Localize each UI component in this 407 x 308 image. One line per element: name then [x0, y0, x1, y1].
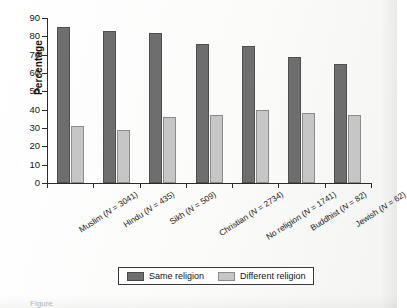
- x-axis-tick: [278, 183, 279, 188]
- x-axis-category-label: Muslim (N = 3041): [77, 189, 140, 234]
- bar-same-religion: [288, 57, 301, 184]
- legend-swatch-diff: [218, 272, 235, 281]
- y-axis-tick-label: 80: [12, 31, 40, 40]
- figure-caption: Figure: [30, 299, 53, 308]
- bar-different-religion: [348, 115, 361, 183]
- bar-same-religion: [334, 64, 347, 183]
- y-axis-tick-label: 70: [12, 50, 40, 59]
- x-axis-tick: [47, 183, 48, 188]
- bar-same-religion: [57, 27, 70, 183]
- chart-legend: Same religionDifferent religion: [118, 267, 314, 285]
- bar-same-religion: [103, 31, 116, 183]
- x-axis-tick: [325, 183, 326, 188]
- bars-plot-area: [47, 18, 371, 183]
- y-axis-tick-label: 0: [12, 178, 40, 187]
- y-axis-tick-label: 20: [12, 141, 40, 150]
- x-axis-tick: [232, 183, 233, 188]
- legend-label: Same religion: [149, 271, 204, 281]
- x-axis-line: [47, 183, 371, 184]
- y-axis-tick-label: 60: [12, 68, 40, 77]
- legend-swatch-same: [127, 272, 144, 281]
- y-axis-tick-label: 30: [12, 123, 40, 132]
- legend-label: Different religion: [240, 271, 305, 281]
- legend-item: Different religion: [218, 271, 305, 281]
- bar-different-religion: [210, 115, 223, 183]
- bar-different-religion: [302, 113, 315, 183]
- x-axis-tick: [186, 183, 187, 188]
- y-axis-tick-label: 90: [12, 13, 40, 22]
- x-axis-tick: [371, 183, 372, 188]
- bar-different-religion: [117, 130, 130, 183]
- bar-same-religion: [242, 46, 255, 184]
- page-edge-shadow-bottom: [0, 296, 397, 308]
- bar-different-religion: [256, 110, 269, 183]
- x-axis-tick: [93, 183, 94, 188]
- bar-different-religion: [163, 117, 176, 183]
- bar-same-religion: [149, 33, 162, 183]
- x-axis-tick: [140, 183, 141, 188]
- page-edge-shadow-right: [381, 0, 397, 308]
- y-axis-tick-label: 10: [12, 160, 40, 169]
- bar-different-religion: [71, 126, 84, 183]
- y-axis-tick-label: 40: [12, 105, 40, 114]
- y-axis-tick-label: 50: [12, 86, 40, 95]
- legend-item: Same religion: [127, 271, 204, 281]
- bar-same-religion: [196, 44, 209, 183]
